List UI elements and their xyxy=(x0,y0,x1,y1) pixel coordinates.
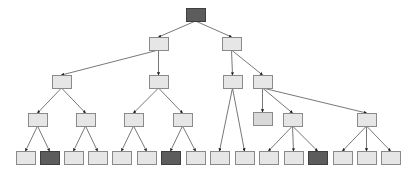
tree-node-L1b xyxy=(223,38,242,51)
edge-L3c-F5 xyxy=(122,126,134,151)
edge-L3g-F16 xyxy=(367,126,391,151)
edges-layer xyxy=(26,21,391,151)
tree-node-L3g xyxy=(358,114,377,127)
nodes-layer xyxy=(17,9,401,165)
edge-L2b-L3c xyxy=(134,88,159,113)
edge-L2c-F9 xyxy=(220,88,233,151)
edge-root-L1a xyxy=(159,21,196,37)
tree-node-F2 xyxy=(41,152,60,165)
tree-node-L3d xyxy=(174,114,193,127)
tree-node-L3e xyxy=(254,113,273,126)
tree-node-F11 xyxy=(260,152,279,165)
edge-L3f-F11 xyxy=(269,126,293,151)
tree-node-F16 xyxy=(382,152,401,165)
edge-L1b-L2c xyxy=(232,50,233,75)
tree-node-L3c xyxy=(125,114,144,127)
tree-node-F12 xyxy=(285,152,304,165)
tree-node-L2c xyxy=(224,76,243,89)
tree-node-F13 xyxy=(309,152,328,165)
edge-L2b-L3d xyxy=(159,88,183,113)
tree-node-F1 xyxy=(17,152,36,165)
tree-node-F8 xyxy=(187,152,206,165)
edge-L3d-F7 xyxy=(171,126,183,151)
tree-node-F4 xyxy=(89,152,108,165)
tree-node-F6 xyxy=(138,152,157,165)
edge-L3f-F12 xyxy=(293,126,294,151)
tree-node-F3 xyxy=(65,152,84,165)
edge-L2a-L3b xyxy=(62,88,86,113)
tree-node-L2a xyxy=(53,76,72,89)
edge-L3g-F14 xyxy=(343,126,367,151)
tree-node-F15 xyxy=(358,152,377,165)
edge-L3c-F6 xyxy=(134,126,147,151)
edge-root-L1b xyxy=(196,21,232,37)
tree-node-L2d xyxy=(254,76,273,89)
edge-L3a-F2 xyxy=(38,126,50,151)
edge-L1a-L2a xyxy=(62,50,159,75)
edge-L3d-F8 xyxy=(183,126,196,151)
tree-node-L1a xyxy=(150,38,169,51)
edge-L2c-F10 xyxy=(233,88,245,151)
tree-node-L3f xyxy=(284,114,303,127)
tree-node-L3b xyxy=(77,114,96,127)
tree-node-F14 xyxy=(334,152,353,165)
tree-diagram xyxy=(0,0,416,173)
tree-node-F10 xyxy=(236,152,255,165)
tree-node-F5 xyxy=(113,152,132,165)
edge-L3a-F1 xyxy=(26,126,38,151)
tree-node-L3a xyxy=(29,114,48,127)
edge-L3b-F3 xyxy=(74,126,86,151)
edge-L3b-F4 xyxy=(86,126,98,151)
edge-L3f-F13 xyxy=(293,126,318,151)
tree-node-L2b xyxy=(150,76,169,89)
edge-L1b-L2d xyxy=(232,50,263,75)
tree-node-root xyxy=(187,9,206,22)
tree-node-F7 xyxy=(162,152,181,165)
edge-L2a-L3a xyxy=(38,88,62,113)
tree-node-F9 xyxy=(211,152,230,165)
